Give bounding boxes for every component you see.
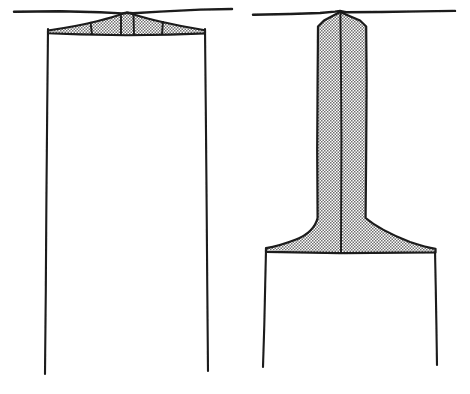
left-panel-divider-3 — [134, 15, 135, 35]
figure-container — [0, 0, 470, 394]
drawing-background — [0, 0, 470, 394]
technical-drawing-svg — [0, 0, 470, 394]
left-panel-divider-4 — [162, 21, 163, 34]
right-panel-center-seam — [340, 14, 341, 252]
